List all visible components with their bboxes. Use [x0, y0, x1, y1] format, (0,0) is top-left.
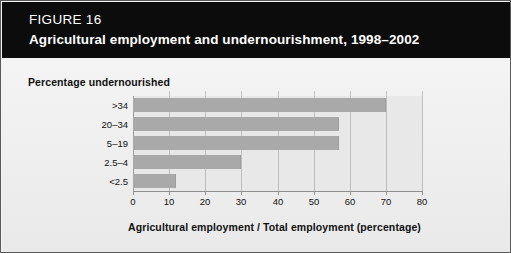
x-axis-tick-label: 80 — [407, 196, 437, 207]
figure-header-band: FIGURE 16 Agricultural employment and un… — [2, 2, 511, 58]
bar-row — [133, 153, 422, 172]
x-axis-tick-50 — [314, 191, 315, 195]
x-axis-tick-80 — [422, 191, 423, 195]
plot-top-tick — [314, 91, 315, 96]
plot-top-tick — [278, 91, 279, 96]
y-axis-tick-label: 2.5–4 — [22, 158, 128, 168]
x-axis-title: Agricultural employment / Total employme… — [92, 221, 421, 233]
bar-row — [133, 96, 422, 115]
plot-top-tick — [386, 91, 387, 96]
y-axis-tick-label: 20–34 — [22, 120, 128, 130]
plot-top-tick — [241, 91, 242, 96]
x-axis-tick-label: 40 — [263, 196, 293, 207]
x-axis-tick-20 — [205, 191, 206, 195]
figure-title: Agricultural employment and undernourish… — [29, 30, 511, 49]
chart-body: Percentage undernourished >3420–345–192.… — [2, 58, 511, 252]
plot-top-tick — [422, 91, 423, 96]
bar-row — [133, 115, 422, 134]
y-axis-tick-label: <2.5 — [22, 177, 128, 187]
y-axis-tick-label: 5–19 — [22, 139, 128, 149]
bar — [133, 98, 386, 112]
y-axis-title: Percentage undernourished — [28, 76, 170, 88]
x-axis-title-wrap: Agricultural employment / Total employme… — [2, 221, 511, 233]
x-axis-tick-label: 60 — [335, 196, 365, 207]
y-axis-tick-labels: >3420–345–192.5–4<2.5 — [22, 96, 128, 191]
plot-area — [133, 96, 422, 191]
x-axis-tick-40 — [278, 191, 279, 195]
bar — [133, 174, 176, 188]
y-axis-tick-label: >34 — [22, 101, 128, 111]
bar-row — [133, 134, 422, 153]
x-axis-tick-60 — [350, 191, 351, 195]
bar — [133, 136, 339, 150]
gridline-80 — [422, 96, 423, 191]
x-axis-tick-30 — [241, 191, 242, 195]
x-axis-tick-label: 30 — [226, 196, 256, 207]
plot-top-tick — [169, 91, 170, 96]
bar — [133, 155, 241, 169]
plot-top-tick — [205, 91, 206, 96]
x-axis-tick-label: 0 — [118, 196, 148, 207]
figure-number-label: FIGURE 16 — [29, 11, 511, 28]
plot-top-tick — [350, 91, 351, 96]
x-axis-tick-0 — [133, 191, 134, 195]
x-axis-tick-70 — [386, 191, 387, 195]
x-axis-tick-label: 50 — [299, 196, 329, 207]
x-axis-tick-10 — [169, 191, 170, 195]
bar — [133, 117, 339, 131]
figure-container: FIGURE 16 Agricultural employment and un… — [0, 0, 511, 253]
x-axis-tick-label: 10 — [154, 196, 184, 207]
bar-series — [133, 96, 422, 191]
bar-row — [133, 172, 422, 191]
x-axis-tick-label: 20 — [190, 196, 220, 207]
x-axis-tick-label: 70 — [371, 196, 401, 207]
